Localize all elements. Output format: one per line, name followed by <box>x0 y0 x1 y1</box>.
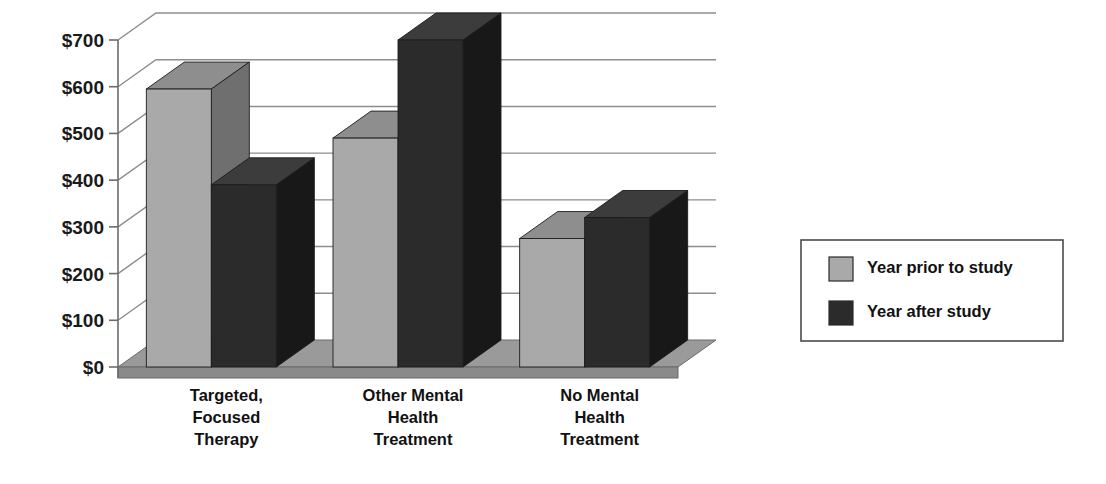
legend-box <box>801 240 1063 341</box>
legend-swatch-2 <box>829 301 853 325</box>
legend: Year prior to studyYear after study <box>801 240 1063 341</box>
category-label-line: No Mental <box>560 386 639 404</box>
category-label-line: Treatment <box>560 430 639 448</box>
y-axis-tick-label: $400 <box>62 170 104 191</box>
bar-chart-figure: $0$100$200$300$400$500$600$700 Targeted,… <box>0 0 1106 484</box>
y-axis-tick-label: $600 <box>62 77 104 98</box>
bar-3-series-2 <box>585 191 688 367</box>
y-axis-tick-label: $700 <box>62 30 104 51</box>
bar-2-series-2 <box>398 13 501 367</box>
y-axis-tick-label: $500 <box>62 123 104 144</box>
floor-front-face <box>118 367 678 378</box>
category-label-line: Treatment <box>374 430 453 448</box>
legend-label-1: Year prior to study <box>867 258 1014 276</box>
category-label-line: Targeted, <box>190 386 263 404</box>
category-label-line: Health <box>388 408 438 426</box>
legend-label-2: Year after study <box>867 302 992 320</box>
y-axis-tick-label: $300 <box>62 217 104 238</box>
category-label-line: Health <box>574 408 624 426</box>
y-axis-tick-label: $100 <box>62 310 104 331</box>
bar-1-series-2 <box>211 158 314 367</box>
category-label-line: Therapy <box>194 430 259 448</box>
category-label-line: Other Mental <box>363 386 464 404</box>
category-label-line: Focused <box>192 408 260 426</box>
y-axis-tick-label: $200 <box>62 264 104 285</box>
chart-canvas: $0$100$200$300$400$500$600$700 Targeted,… <box>0 0 1106 484</box>
y-axis-tick-label: $0 <box>83 357 104 378</box>
legend-swatch-1 <box>829 257 853 281</box>
